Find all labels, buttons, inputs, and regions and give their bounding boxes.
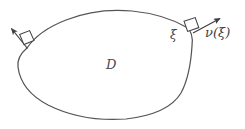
domain-diagram-canvas bbox=[0, 0, 245, 130]
boundary-point-label: ξ bbox=[170, 29, 177, 41]
right-angle-marker-right bbox=[184, 18, 199, 32]
domain-label: D bbox=[106, 58, 116, 71]
geometry-figure: D ξ ν(ξ) bbox=[0, 0, 245, 130]
normal-vector-label: ν(ξ) bbox=[205, 26, 230, 39]
figure-bottom-edge bbox=[0, 129, 245, 130]
